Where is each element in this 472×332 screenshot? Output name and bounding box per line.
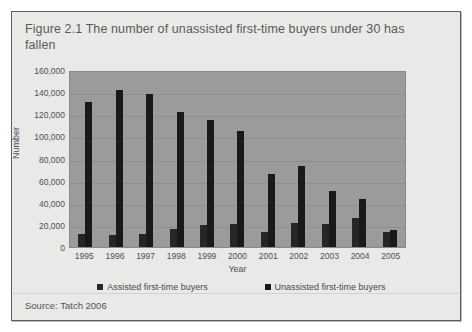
x-axis-tick-label: 1995: [69, 251, 100, 261]
y-axis-tick-label: 160,000: [34, 66, 65, 76]
x-axis-tick-label: 2003: [314, 251, 345, 261]
x-axis-tick-label: 2001: [253, 251, 284, 261]
bar: [200, 225, 207, 247]
x-axis-tick-label: 1998: [161, 251, 192, 261]
source-note: Source: Tatch 2006: [25, 300, 107, 311]
x-axis-tick-label: 2000: [222, 251, 253, 261]
bar: [291, 223, 298, 247]
y-axis-tick-label: 140,000: [34, 88, 65, 98]
bar-chart: Number 160,000140,000120,000100,00080,00…: [12, 60, 462, 265]
bar: [261, 232, 268, 247]
y-axis-tick-label: 20,000: [39, 221, 65, 231]
bar: [298, 166, 305, 247]
bar-group: [222, 72, 252, 247]
bar-groups: [70, 72, 405, 247]
y-axis-tick-labels: 160,000140,000120,000100,00080,00060,000…: [12, 71, 65, 248]
bar: [146, 94, 153, 247]
bar-group: [344, 72, 374, 247]
bar-group: [131, 72, 161, 247]
y-axis-tick-label: 60,000: [39, 177, 65, 187]
x-axis-title: Year: [69, 264, 406, 274]
x-axis-tick-label: 1996: [100, 251, 131, 261]
x-axis-tick-label: 1999: [192, 251, 223, 261]
x-axis-tick-labels: 1995199619971998199920002001200220032004…: [69, 251, 406, 261]
bar-group: [253, 72, 283, 247]
bar-group: [70, 72, 100, 247]
bar: [177, 112, 184, 247]
bar: [383, 232, 390, 247]
bar-group: [283, 72, 313, 247]
divider: [13, 293, 459, 294]
y-axis-tick-label: 120,000: [34, 110, 65, 120]
bar: [116, 90, 123, 247]
bar: [268, 174, 275, 247]
bar-group: [375, 72, 405, 247]
bar: [352, 218, 359, 247]
bar: [237, 131, 244, 247]
bar: [170, 229, 177, 247]
bar: [78, 234, 85, 247]
legend-entry[interactable]: Assisted first-time buyers: [97, 282, 208, 292]
x-axis-tick-label: 2004: [345, 251, 376, 261]
bar-group: [192, 72, 222, 247]
bar: [359, 199, 366, 247]
bar: [329, 191, 336, 247]
bar: [109, 235, 116, 247]
figure-card: Figure 2.1 The number of unassisted firs…: [11, 11, 461, 321]
bar: [322, 224, 329, 247]
bar: [207, 120, 214, 247]
bar: [390, 230, 397, 247]
plot-area: [69, 71, 406, 248]
x-axis-tick-label: 2005: [375, 251, 406, 261]
chart-legend: Assisted first-time buyersUnassisted fir…: [69, 282, 414, 292]
y-axis-tick-label: 80,000: [39, 155, 65, 165]
x-axis-tick-label: 2002: [283, 251, 314, 261]
bar: [139, 234, 146, 247]
legend-swatch-icon: [265, 284, 271, 290]
bar-group: [161, 72, 191, 247]
legend-label: Unassisted first-time buyers: [275, 282, 386, 292]
bar: [230, 224, 237, 247]
legend-label: Assisted first-time buyers: [107, 282, 208, 292]
y-axis-tick-label: 40,000: [39, 199, 65, 209]
y-axis-tick-label: 0: [60, 243, 65, 253]
y-axis-tick-label: 100,000: [34, 132, 65, 142]
legend-entry[interactable]: Unassisted first-time buyers: [265, 282, 386, 292]
bar-group: [100, 72, 130, 247]
x-axis-tick-label: 1997: [130, 251, 161, 261]
page-title: Figure 2.1 The number of unassisted firs…: [25, 21, 435, 53]
bar-group: [314, 72, 344, 247]
bar: [85, 102, 92, 247]
legend-swatch-icon: [97, 284, 103, 290]
